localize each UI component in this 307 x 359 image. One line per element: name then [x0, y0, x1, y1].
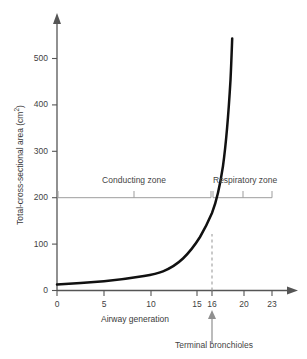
- conducting-zone-label: Conducting zone: [94, 175, 174, 185]
- y-axis-title-text: Total-cross-sectional area (cm: [15, 112, 25, 225]
- y-tick-label-0: 0: [24, 285, 48, 295]
- x-tick-label-0: 0: [47, 299, 67, 309]
- conducting-zone-bracket: [58, 191, 211, 198]
- y-tick-label-400: 400: [24, 99, 48, 109]
- y-tick-label-200: 200: [24, 192, 48, 202]
- y-axis-title-wrap: Total-cross-sectional area (cm2): [0, 0, 24, 300]
- y-tick-label-500: 500: [24, 53, 48, 63]
- y-axis-title-superscript: 2: [13, 108, 20, 112]
- x-axis-ticks: [57, 291, 272, 297]
- x-axis-title: Airway generation: [80, 314, 190, 324]
- y-axis-ticks: [52, 59, 57, 291]
- respiratory-zone-bracket: [213, 191, 272, 198]
- area-curve: [57, 39, 232, 285]
- x-tick-label-20: 20: [234, 299, 254, 309]
- x-axis: [57, 287, 298, 295]
- terminal-bronchioles-label: Terminal bronchioles: [159, 340, 269, 350]
- x-tick-label-16: 16: [202, 299, 222, 309]
- y-tick-label-300: 300: [24, 146, 48, 156]
- y-axis-title-close: ): [15, 105, 25, 108]
- terminal-bronchioles-arrow: [208, 310, 216, 343]
- x-tick-label-10: 10: [141, 299, 161, 309]
- y-axis: [53, 13, 61, 291]
- y-axis-title: Total-cross-sectional area (cm2): [15, 55, 25, 275]
- y-tick-label-100: 100: [24, 239, 48, 249]
- x-tick-label-5: 5: [94, 299, 114, 309]
- respiratory-zone-label: Respiratory zone: [213, 175, 295, 185]
- x-tick-label-23: 23: [262, 299, 282, 309]
- chart-figure: 500 400 300 200 100 0 0 5 10 15 16 20 23…: [0, 0, 307, 359]
